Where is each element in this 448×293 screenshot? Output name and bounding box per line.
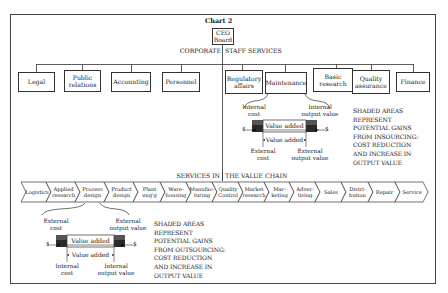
staff-label: Maintenance [266, 79, 307, 86]
chain-step-applied-research: Appliedresearch [49, 182, 78, 202]
staff-label: assurance [355, 82, 387, 89]
outsourcing-top-right-label: Externaloutput value [106, 218, 150, 232]
staff-box-legal: Legal [18, 72, 55, 92]
outsourcing-top-left-label: Externalcost [38, 218, 74, 232]
staff-label: Basic [325, 73, 342, 80]
insourcing-top-right-label: Internaloutput value [298, 104, 342, 118]
insourcing-value-added-bracket: Value added [265, 136, 304, 143]
staff-label: relations [69, 81, 97, 88]
outsourcing-value-added-bar: Value added [67, 237, 114, 244]
outsourcing-note: SHADED AREAS REPRESENT POTENTIAL GAINS F… [154, 220, 226, 280]
outsourcing-bottom-right-label: Internaloutput value [94, 263, 138, 277]
corporate-header-left: CORPORATE [174, 48, 221, 54]
chain-step-distribution: Distri-bution [344, 182, 371, 202]
staff-label: Legal [28, 78, 45, 85]
chain-step-repair: Repair [371, 182, 398, 202]
staff-box-basic-research: Basic research [313, 68, 353, 92]
outsourcing-dollar-right: $ [133, 242, 137, 248]
insourcing-bottom-left-label: Externalcost [245, 148, 281, 162]
staff-label: Public [73, 74, 93, 81]
insourcing-bottom-right-label: Externaloutput value [288, 148, 332, 162]
staff-box-maintenance: Maintenance [265, 72, 307, 94]
chain-step-plant-engg: Planteng'g [136, 182, 163, 202]
ceo-line2: Board [214, 37, 232, 44]
chain-step-market-research: Marketresearch [241, 182, 267, 202]
insourcing-dollar-right: $ [325, 127, 329, 133]
staff-box-personnel: Personnel [162, 72, 200, 92]
insourcing-value-added-bar: Value added [263, 122, 306, 129]
chart-title: Chart 2 [205, 18, 232, 25]
staff-label: Accounting [113, 78, 149, 85]
staff-box-finance: Finance [396, 72, 430, 92]
chain-step-sales: Sales [318, 182, 344, 202]
staff-label: affairs [234, 82, 254, 89]
staff-label: Finance [400, 78, 425, 85]
value-chain-header-left: SERVICES IN [172, 173, 220, 179]
corporate-header-right: STAFF SERVICES [225, 48, 282, 54]
staff-label: Regulatory [227, 75, 262, 82]
staff-box-regulatory-affairs: Regulatory affairs [225, 70, 263, 94]
outsourcing-bottom-left-label: Internalcost [49, 263, 85, 277]
insourcing-top-left-label: Internalcost [236, 104, 272, 118]
outsourcing-value-added-bracket: Value added [69, 251, 112, 258]
chain-step-logistics: Logistics [23, 182, 51, 202]
chain-step-manufacturing: Manufac-turing [189, 182, 215, 202]
value-chain-header-right: THE VALUE CHAIN [225, 173, 287, 179]
chain-step-marketing: Mar-keting [267, 182, 292, 202]
insourcing-note: SHADED AREAS REPRESENT POTENTIAL GAINS F… [353, 107, 418, 167]
chain-step-warehousing: Ware-housing [163, 182, 189, 202]
chain-step-process-design: Processdesign [78, 182, 107, 202]
chain-step-quality-control: QualityControl [215, 182, 241, 202]
ceo-board-box: CEO Board [212, 28, 234, 45]
staff-box-quality-assurance: Quality assurance [352, 70, 390, 94]
staff-label: research [319, 80, 347, 87]
staff-box-public-relations: Public relations [64, 70, 101, 92]
chain-step-product-design: Productdesign [107, 182, 136, 202]
staff-label: Personnel [165, 78, 196, 85]
outsourcing-dollar-left: $ [46, 242, 50, 248]
chain-step-advertising: Adver-tising [292, 182, 318, 202]
staff-label: Quality [360, 75, 383, 82]
insourcing-dollar-left: $ [242, 127, 246, 133]
staff-box-accounting: Accounting [111, 72, 151, 92]
chain-step-service: Service [398, 182, 426, 202]
